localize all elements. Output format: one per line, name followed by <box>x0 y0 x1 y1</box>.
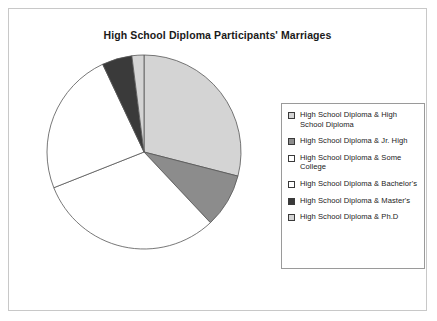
legend-item-label: High School Diploma & Master's <box>300 196 410 206</box>
legend-item-label: High School Diploma & Bachelor's <box>300 179 417 189</box>
legend-item-label: High School Diploma & Ph.D <box>300 212 398 222</box>
pie-slice-group <box>47 55 241 249</box>
legend-swatch-icon <box>288 214 295 221</box>
legend-swatch-icon <box>288 155 295 162</box>
legend-item-hs-diploma[interactable]: High School Diploma & High School Diplom… <box>288 110 420 129</box>
pie-chart <box>19 45 269 290</box>
legend-item-bachelors[interactable]: High School Diploma & Bachelor's <box>288 179 420 189</box>
legend-item-label: High School Diploma & Some College <box>300 153 420 172</box>
legend: High School Diploma & High School Diplom… <box>281 103 425 269</box>
legend-swatch-icon <box>288 181 295 188</box>
legend-item-masters[interactable]: High School Diploma & Master's <box>288 196 420 206</box>
legend-item-phd[interactable]: High School Diploma & Ph.D <box>288 212 420 222</box>
legend-item-label: High School Diploma & High School Diplom… <box>300 110 420 129</box>
legend-swatch-icon <box>288 138 295 145</box>
legend-swatch-icon <box>288 198 295 205</box>
pie-chart-svg <box>19 45 269 290</box>
legend-item-jr-high[interactable]: High School Diploma & Jr. High <box>288 136 420 146</box>
legend-swatch-icon <box>288 112 295 119</box>
legend-item-some-college[interactable]: High School Diploma & Some College <box>288 153 420 172</box>
chart-frame: High School Diploma Participants' Marria… <box>8 8 427 311</box>
legend-item-label: High School Diploma & Jr. High <box>300 136 407 146</box>
page-title: High School Diploma Participants' Marria… <box>9 29 426 41</box>
